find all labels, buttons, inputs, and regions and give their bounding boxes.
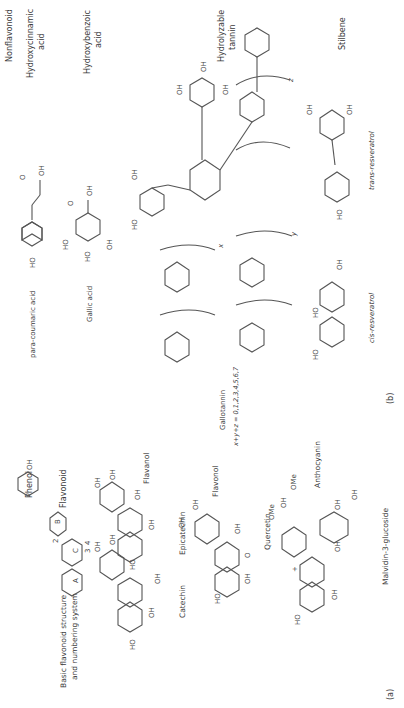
svg-text:OH: OH [192,499,200,510]
label-flavonol: Flavonol [211,466,220,497]
svg-text:OH: OH [178,517,186,528]
label-stilbene: Stilbene [338,17,347,50]
svg-text:OH: OH [306,104,314,115]
svg-text:OH: OH [109,534,117,545]
svg-text:OH: OH [109,469,117,480]
label-trans-resveratrol: trans-resveratrol [368,131,376,190]
svg-text:OH: OH [234,523,242,534]
svg-text:OH: OH [280,497,288,508]
svg-text:2: 2 [52,539,60,543]
svg-text:OH: OH [38,165,46,176]
label-basic-flavonoid: Basic flavonoid structure [59,594,68,688]
label-panel-b: (b) [386,393,395,404]
label-hydroxybenzoic: Hydroxybenzoic [83,10,92,74]
label-hydrolyzable-2: tannin [228,25,237,50]
svg-text:OH: OH [334,499,342,510]
svg-text:OH: OH [244,573,252,584]
svg-text:HO: HO [312,349,320,360]
svg-text:OH: OH [222,84,230,95]
basic-flavonoid-structure: A B C 3 4 2 [50,512,92,596]
label-malvidin: Malvidin-3-glucoside [381,507,390,585]
svg-text:OH: OH [134,489,142,500]
catechin-structure: HO OH OH OH OH [94,534,162,650]
svg-text:HO: HO [129,639,137,650]
svg-text:HO: HO [84,251,92,262]
svg-text:y: y [290,231,298,237]
label-cis-resveratrol: cis-resveratrol [368,293,376,343]
label-flavanol: Flavanol [142,453,151,484]
label-hydroxybenzoic-2: acid [94,31,103,48]
svg-text:OH: OH [94,541,102,552]
svg-text:HO: HO [62,239,70,250]
plus-charge: + [291,566,299,572]
cis-resveratrol-structure: HO OH HO [312,259,344,360]
label-numbering-system: and numbering system [70,593,79,680]
svg-text:OH: OH [200,61,208,72]
svg-text:OH: OH [131,169,139,180]
gallotannin-structure: OH HO OH OH OH z x y [131,28,298,362]
label-flavonoid: Flavonoid [59,469,68,508]
label-para-coumaric: para-coumaric acid [29,290,37,358]
svg-text:B: B [54,519,62,524]
svg-text:OH: OH [86,185,94,196]
svg-text:HO: HO [312,307,320,318]
trans-resveratrol-structure: OH OH HO [306,104,354,220]
label-hydroxycinnamic-2: acid [37,33,46,50]
svg-text:OH: OH [154,573,162,584]
label-nonflavonoid: Nonflavonoid [5,9,14,62]
label-gallic-acid: Gallic acid [86,286,94,322]
svg-text:HO: HO [336,209,344,220]
malvidin-structure: HO OH + OMe OH OMe OH OH OH [268,474,359,625]
svg-text:OMe: OMe [268,504,276,520]
svg-text:OH: OH [346,104,354,115]
svg-text:OH: OH [336,259,344,270]
svg-text:C: C [72,548,80,553]
structures-diagram: Nonflavonoid Hydroxycinnamic acid Hydrox… [0,0,404,708]
svg-text:OH: OH [94,477,102,488]
svg-text:OH: OH [351,489,359,500]
svg-text:OH: OH [148,519,156,530]
chemistry-figure: Nonflavonoid Hydroxycinnamic acid Hydrox… [0,0,404,708]
svg-text:HO: HO [29,257,37,268]
label-hydrolyzable: Hydrolyzable [217,10,226,62]
svg-text:O: O [67,200,75,206]
svg-text:OH: OH [106,239,114,250]
label-anthocyanin: Anthocyanin [313,441,322,488]
svg-text:O: O [19,174,27,180]
svg-text:OH: OH [26,459,34,470]
label-catechin: Catechin [178,585,187,618]
svg-text:O: O [244,552,252,558]
gallic-acid-structure: O OH HO HO OH [62,185,114,262]
svg-text:OH: OH [331,589,339,600]
svg-text:HO: HO [129,559,137,570]
svg-text:A: A [72,578,80,583]
svg-text:OH: OH [334,541,342,552]
label-hydroxycinnamic: Hydroxycinnamic [26,9,35,78]
label-gallotannin-formula: x+y+z = 0,1,2,3,4,5,6,7 [232,366,240,447]
svg-text:x: x [217,243,225,249]
svg-text:OMe: OMe [290,474,298,490]
svg-text:HO: HO [294,614,302,625]
svg-text:OH: OH [148,607,156,618]
svg-text:4: 4 [84,540,92,545]
label-gallotannin: Gallotannin [219,390,227,430]
svg-text:OH: OH [176,84,184,95]
quercetin-structure: HO OH O OH OH OH [178,499,252,604]
svg-text:HO: HO [131,219,139,230]
label-panel-a: (a) [386,689,395,700]
svg-text:3: 3 [84,549,92,553]
para-coumaric-structure: O OH HO [19,165,46,268]
svg-text:z: z [287,78,295,83]
svg-text:HO: HO [214,593,222,604]
